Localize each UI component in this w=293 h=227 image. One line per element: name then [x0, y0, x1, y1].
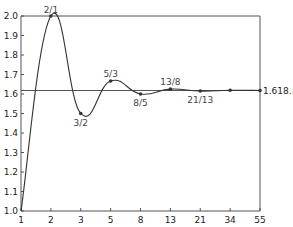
y-tick-label: 1.4	[4, 128, 19, 138]
plot-frame	[21, 16, 260, 211]
x-tick-label: 3	[78, 215, 84, 225]
point-label: 21/13	[187, 95, 213, 105]
y-tick-label: 1.3	[4, 148, 18, 158]
series-line	[21, 13, 260, 211]
golden-ratio-label: 1.618...	[263, 86, 293, 96]
y-tick-label: 1.2	[4, 167, 18, 177]
data-point	[109, 79, 113, 83]
point-label: 3/2	[74, 118, 88, 128]
y-tick-label: 2.0	[4, 11, 19, 21]
data-markers	[49, 14, 262, 115]
x-tick-label: 34	[224, 215, 236, 225]
point-label: 2/1	[44, 5, 58, 15]
y-tick-label: 1.9	[4, 31, 19, 41]
point-labels: 2/13/25/38/513/821/13	[44, 5, 214, 128]
point-label: 5/3	[103, 69, 117, 79]
data-point	[79, 112, 83, 116]
y-tick-label: 1.0	[4, 206, 19, 216]
y-tick-label: 1.6	[4, 89, 19, 99]
data-point	[258, 89, 262, 93]
point-label: 13/8	[160, 77, 180, 87]
x-tick-label: 1	[18, 215, 24, 225]
y-tick-label: 1.1	[4, 187, 18, 197]
point-label: 8/5	[133, 98, 147, 108]
x-tick-label: 2	[48, 215, 54, 225]
data-point	[139, 92, 143, 96]
y-tick-label: 1.5	[4, 109, 18, 119]
x-tick-label: 13	[165, 215, 176, 225]
y-tick-label: 1.7	[4, 70, 18, 80]
data-point	[198, 89, 202, 93]
x-tick-label: 21	[195, 215, 206, 225]
data-point	[228, 88, 232, 92]
x-tick-label: 8	[138, 215, 144, 225]
x-tick-label: 55	[254, 215, 265, 225]
fibonacci-ratio-chart: 1.01.11.21.31.41.51.61.71.81.92.0 123581…	[0, 0, 293, 227]
x-tick-label: 5	[108, 215, 114, 225]
data-point	[169, 87, 173, 91]
y-tick-label: 1.8	[4, 50, 19, 60]
